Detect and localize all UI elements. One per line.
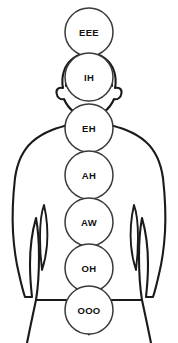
vowel-nodes-layer: EEEIHEHAHAWOHOOO xyxy=(65,8,113,334)
node-ooo[interactable]: OOO xyxy=(65,286,113,334)
vowel-resonance-diagram: EEEIHEHAHAWOHOOO xyxy=(0,0,178,343)
node-ah-label: AH xyxy=(82,170,96,181)
node-eh-label: EH xyxy=(82,123,96,134)
node-oh[interactable]: OH xyxy=(65,244,113,292)
left-leg-outer-line xyxy=(27,300,36,343)
node-ah[interactable]: AH xyxy=(65,151,113,199)
node-ooo-label: OOO xyxy=(77,305,100,316)
node-aw[interactable]: AW xyxy=(65,198,113,246)
node-eh[interactable]: EH xyxy=(65,104,113,152)
body-figure-svg: EEEIHEHAHAWOHOOO xyxy=(0,0,178,343)
node-aw-label: AW xyxy=(81,217,97,228)
node-ih[interactable]: IH xyxy=(65,53,113,101)
node-oh-label: OH xyxy=(82,263,97,274)
node-ih-label: IH xyxy=(84,72,94,83)
right-leg-outer-line xyxy=(142,300,151,343)
node-eee-label: EEE xyxy=(79,27,99,38)
node-eee[interactable]: EEE xyxy=(65,8,113,56)
